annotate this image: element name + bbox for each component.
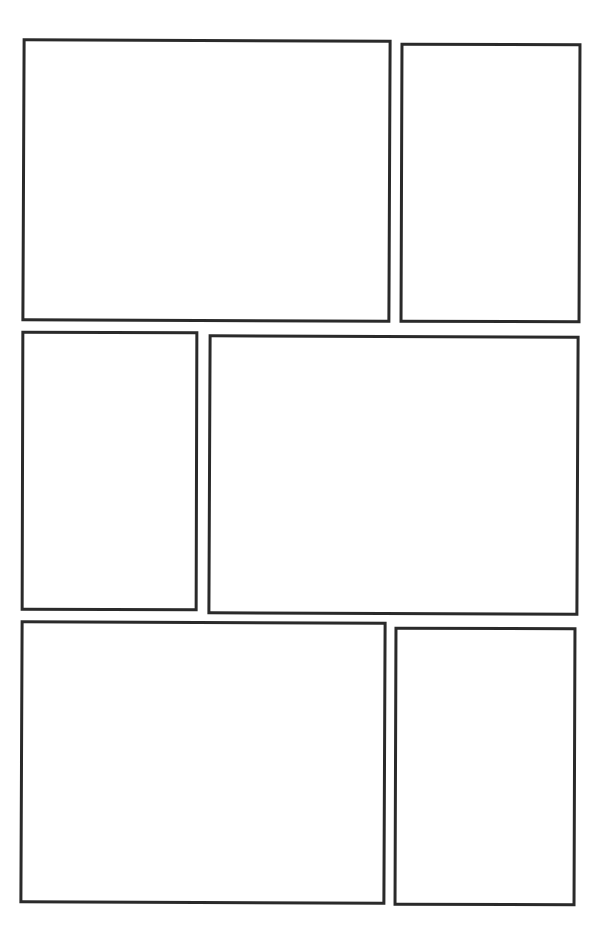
panel-row1-wide-left xyxy=(21,38,391,323)
panel-row2-narrow-left xyxy=(21,331,199,611)
panel-row1-narrow-right xyxy=(400,43,582,324)
comic-page xyxy=(0,0,592,935)
panel-row3-narrow-right xyxy=(394,627,577,907)
panel-row2-wide-right xyxy=(207,334,579,616)
panel-row3-wide-left xyxy=(19,620,386,905)
